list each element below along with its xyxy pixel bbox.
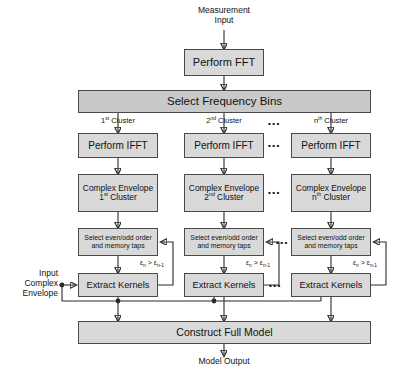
ce-word-2: Cluster [215,192,244,202]
perform-ifft-label-1: Perform IFFT [88,140,147,151]
eps-op-2: > [252,259,260,266]
ce-word-1: Cluster [108,192,137,202]
complex-envelope-box-1[interactable]: Complex Envelope 1st Cluster [78,174,158,212]
ellipsis-ifft-row: ••• [268,141,281,150]
perform-fft-box[interactable]: Perform FFT [184,49,264,76]
flowchart-canvas: Measurement Input Perform FFT Select Fre… [0,0,413,373]
feedback-condition-1: εn > εn-1 [122,259,182,267]
complex-envelope-box-n[interactable]: Complex Envelope nth Cluster [291,174,371,212]
model-output-label: Model Output [186,357,262,367]
complex-envelope-ordinal-1: 1st Cluster [99,193,137,202]
cluster-2-word: Cluster [216,116,242,125]
ice-line3: Envelope [2,289,58,299]
input-complex-envelope-label: Input Complex Envelope [2,269,58,298]
eps-sub-n1-1: n-1 [157,263,164,268]
select-order-box-1[interactable]: Select even/odd order and memory taps [78,228,158,256]
perform-ifft-box-2[interactable]: Perform IFFT [184,133,264,158]
cluster-label-1: 1st Cluster [82,117,154,126]
select-order-line1-n: Select even/odd order [297,234,364,242]
cluster-label-2: 2nd Cluster [188,117,260,126]
ellipsis-cluster-row: ••• [268,119,281,128]
complex-envelope-box-2[interactable]: Complex Envelope 2nd Cluster [184,174,264,212]
ellipsis-select-order-row: ••• [276,238,289,247]
complex-envelope-ordinal-2: 2nd Cluster [204,193,243,202]
select-order-line1-1: Select even/odd order [84,234,151,242]
extract-kernels-label-1: Extract Kernels [86,280,149,290]
select-order-line2-2: and memory taps [197,242,250,250]
select-order-line1-2: Select even/odd order [190,234,257,242]
eps-sub-n1-n: n-1 [370,263,377,268]
ce-word-n: Cluster [321,192,350,202]
select-order-line2-1: and memory taps [91,242,144,250]
extract-kernels-box-n[interactable]: Extract Kernels [291,273,371,297]
eps-op-1: > [146,259,154,266]
measurement-input-line2: Input [178,16,270,26]
perform-ifft-label-2: Perform IFFT [194,140,253,151]
measurement-input-label: Measurement Input [178,6,270,26]
ellipsis-extract-kernels-row: ••• [269,281,282,290]
extract-kernels-label-n: Extract Kernels [299,280,362,290]
construct-full-model-box[interactable]: Construct Full Model [78,321,371,344]
cluster-n-word: Cluster [322,116,348,125]
select-frequency-bins-label: Select Frequency Bins [167,95,282,108]
cluster-1-word: Cluster [109,116,135,125]
feedback-condition-n: εn > εn-1 [335,259,395,267]
select-order-box-2[interactable]: Select even/odd order and memory taps [184,228,264,256]
perform-ifft-label-n: Perform IFFT [301,140,360,151]
perform-ifft-box-1[interactable]: Perform IFFT [78,133,158,158]
select-order-line2-n: and memory taps [304,242,357,250]
select-order-box-n[interactable]: Select even/odd order and memory taps [291,228,371,256]
extract-kernels-box-2[interactable]: Extract Kernels [184,273,264,297]
ellipsis-envelope-row: ••• [268,188,281,197]
cluster-label-n: nth Cluster [295,117,367,126]
feedback-condition-2: εn > εn-1 [228,259,288,267]
eps-sub-n1-2: n-1 [263,263,270,268]
perform-ifft-box-n[interactable]: Perform IFFT [291,133,371,158]
select-frequency-bins-box[interactable]: Select Frequency Bins [78,90,371,113]
complex-envelope-ordinal-n: nth Cluster [312,193,350,202]
perform-fft-label: Perform FFT [193,56,255,68]
extract-kernels-box-1[interactable]: Extract Kernels [78,273,158,297]
extract-kernels-label-2: Extract Kernels [192,280,255,290]
construct-full-model-label: Construct Full Model [176,327,272,339]
eps-op-n: > [359,259,367,266]
